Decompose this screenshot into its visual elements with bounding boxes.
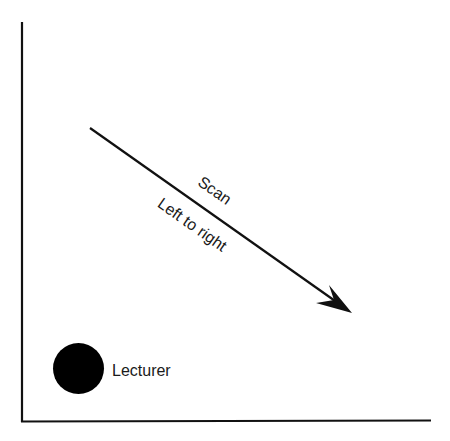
lecturer-label: Lecturer [112, 362, 171, 379]
scan-arrow [90, 128, 352, 313]
lecturer-marker [53, 343, 104, 394]
arrow-label-scan: Scan [195, 173, 235, 208]
diagram-canvas: Scan Left to right Lecturer [0, 0, 450, 441]
x-axis [21, 421, 431, 422]
arrow-shaft [90, 128, 338, 303]
arrow-head-icon [316, 285, 352, 313]
